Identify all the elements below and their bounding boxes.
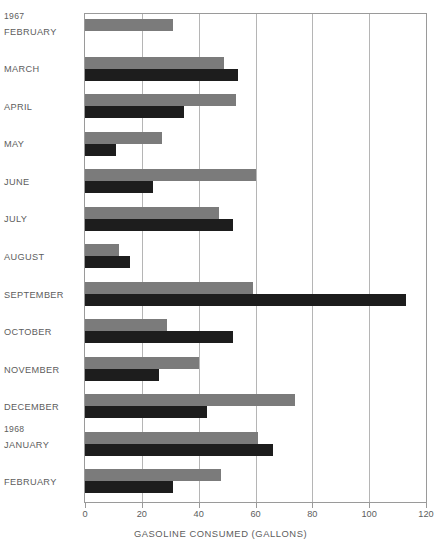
category-label-3: MAY [4, 139, 72, 149]
bar-series-a-november-9 [85, 357, 199, 369]
bar-group [85, 127, 426, 165]
x-tick-label-120: 120 [418, 509, 433, 519]
bar-series-b-april-2 [85, 106, 184, 118]
x-tick-60 [256, 503, 257, 508]
category-label-11: JANUARY [4, 440, 72, 450]
category-label-10: DECEMBER [4, 402, 72, 412]
bar-series-b-august-6 [85, 256, 130, 268]
bar-group [85, 202, 426, 240]
bar-series-a-march-1 [85, 57, 224, 69]
bar-group [85, 164, 426, 202]
bar-series-a-june-4 [85, 169, 256, 181]
category-label-1: MARCH [4, 64, 72, 74]
bar-group [85, 352, 426, 390]
bar-series-b-october-8 [85, 331, 233, 343]
bar-series-b-july-5 [85, 219, 233, 231]
category-label-7: SEPTEMBER [4, 290, 72, 300]
x-tick-120 [426, 503, 427, 508]
bar-group [85, 277, 426, 315]
category-axis-labels: FEBRUARYMARCHAPRILMAYJUNEJULYAUGUSTSEPTE… [0, 13, 80, 503]
x-tick-0 [85, 503, 86, 508]
x-tick-label-80: 80 [307, 509, 317, 519]
bar-group [85, 314, 426, 352]
bar-group [85, 52, 426, 90]
bar-series-a-december-10 [85, 394, 295, 406]
bar-series-b-december-10 [85, 406, 207, 418]
year-annotation-1967: 1967 [4, 11, 24, 21]
bar-series-a-may-3 [85, 132, 162, 144]
bar-series-a-february-0 [85, 19, 173, 31]
bar-series-a-august-6 [85, 244, 119, 256]
x-tick-40 [199, 503, 200, 508]
x-tick-80 [312, 503, 313, 508]
category-label-6: AUGUST [4, 252, 72, 262]
bar-series-a-july-5 [85, 207, 219, 219]
bar-series-a-january-11 [85, 432, 258, 444]
bar-group [85, 239, 426, 277]
bar-series-a-april-2 [85, 94, 236, 106]
bar-group [85, 427, 426, 465]
category-label-0: FEBRUARY [4, 27, 72, 37]
bar-group [85, 464, 426, 502]
bar-series-b-february-12 [85, 481, 173, 493]
category-label-5: JULY [4, 214, 72, 224]
x-tick-label-60: 60 [250, 509, 260, 519]
category-label-12: FEBRUARY [4, 477, 72, 487]
x-tick-label-0: 0 [82, 509, 87, 519]
plot-area [84, 13, 427, 503]
category-label-2: APRIL [4, 102, 72, 112]
category-label-4: JUNE [4, 177, 72, 187]
bar-series-a-october-8 [85, 319, 167, 331]
bar-series-a-february-12 [85, 469, 221, 481]
bar-series-b-june-4 [85, 181, 153, 193]
bar-group [85, 89, 426, 127]
bar-series-b-november-9 [85, 369, 159, 381]
bar-series-b-september-7 [85, 294, 406, 306]
gasoline-consumed-bar-chart: FEBRUARYMARCHAPRILMAYJUNEJULYAUGUSTSEPTE… [0, 0, 441, 549]
x-tick-20 [142, 503, 143, 508]
bar-group [85, 14, 426, 52]
category-label-8: OCTOBER [4, 327, 72, 337]
bar-series-b-may-3 [85, 144, 116, 156]
bar-group [85, 389, 426, 427]
bar-series-b-january-11 [85, 444, 273, 456]
value-axis-ticks: 020406080100120 [84, 503, 427, 509]
category-label-9: NOVEMBER [4, 365, 72, 375]
x-tick-label-40: 40 [194, 509, 204, 519]
bar-series-a-september-7 [85, 282, 253, 294]
year-annotation-1968: 1968 [4, 424, 24, 434]
x-tick-100 [369, 503, 370, 508]
x-tick-label-100: 100 [361, 509, 376, 519]
bar-series-b-march-1 [85, 69, 238, 81]
x-axis-title: GASOLINE CONSUMED (GALLONS) [0, 528, 441, 539]
x-tick-label-20: 20 [137, 509, 147, 519]
